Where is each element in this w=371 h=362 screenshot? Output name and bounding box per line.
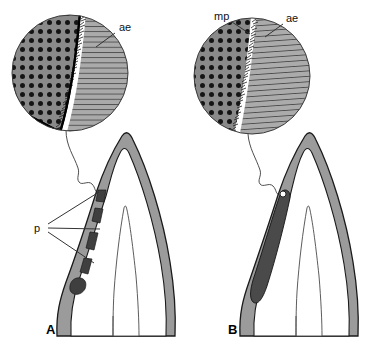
- label-ae-a-text: ae: [119, 21, 131, 33]
- pore-patch: [96, 190, 106, 202]
- panel-letter-b: B: [228, 322, 237, 337]
- label-mp-text: mp: [214, 10, 229, 22]
- figure-root: ae p A: [0, 0, 371, 362]
- tooth-enamel-figure: ae p A: [0, 0, 371, 362]
- panel-letter-a: A: [46, 322, 56, 337]
- band-terminus-b: [280, 191, 286, 197]
- label-p-text: p: [34, 222, 40, 234]
- label-ae-b-text: ae: [286, 12, 298, 24]
